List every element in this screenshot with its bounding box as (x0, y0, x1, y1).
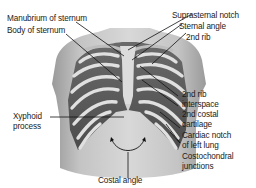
label-body-of-sternum: Body of sternum (7, 26, 65, 36)
label-costochondral-line2: junctions (182, 162, 213, 172)
label-sternal-angle: Sternal angle (179, 22, 226, 32)
label-2nd-costal-cartilage-line1: 2nd costal (182, 110, 218, 120)
label-xyphoid-line1: Xyphoid (13, 112, 42, 122)
label-costal-angle: Costal angle (98, 176, 142, 186)
label-2nd-rib: 2nd rib (186, 33, 210, 43)
label-2nd-costal-cartilage-line2: cartilage (182, 120, 212, 130)
label-2nd-rib-interspace-line2: interspace (182, 100, 219, 110)
label-cardiac-notch-line2: of left lung (182, 141, 219, 151)
thorax-diagram: Manubrium of sternum Body of sternum Sup… (0, 0, 256, 188)
label-2nd-rib-interspace-line1: 2nd rib (182, 90, 206, 100)
label-suprasternal-notch: Suprasternal notch (172, 11, 239, 21)
label-costochondral-line1: Costochondral (182, 152, 234, 162)
label-manubrium: Manubrium of sternum (7, 14, 87, 24)
label-cardiac-notch-line1: Cardiac notch (182, 131, 231, 141)
label-xyphoid-line2: process (13, 122, 41, 132)
